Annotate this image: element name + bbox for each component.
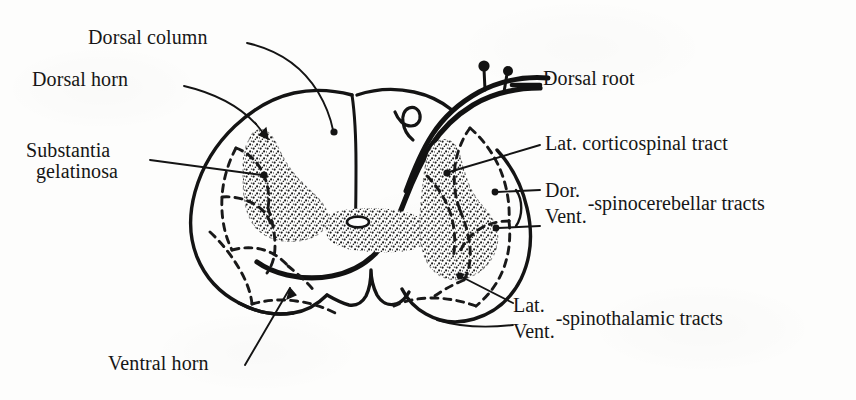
label-ventral-horn: Ventral horn: [108, 352, 209, 374]
label-substantia-gelatinosa: Substantia gelatinosa: [26, 140, 118, 182]
label-lat-corticospinal-tract: Lat. corticospinal tract: [545, 132, 728, 154]
spinocerebellar-abbrev-stack: Dor. Vent.: [545, 178, 587, 229]
central-canal: [347, 217, 369, 228]
spinothalamic-ventral-abbrev: Vent.: [513, 319, 555, 345]
label-spinocerebellar-tracts: Dor. Vent. -spinocerebellar tracts: [545, 178, 765, 229]
spinocerebellar-tract-name: -spinocerebellar tracts: [587, 192, 765, 215]
substantia-line-1: Substantia: [26, 139, 110, 161]
label-spinothalamic-tracts: Lat. Vent. -spinothalamic tracts: [513, 293, 723, 344]
spinocerebellar-ventral-abbrev: Vent.: [545, 204, 587, 230]
substantia-line-2: gelatinosa: [26, 161, 118, 182]
spinothalamic-lateral-abbrev: Lat.: [513, 293, 555, 319]
label-dorsal-column: Dorsal column: [88, 26, 208, 48]
spinothalamic-abbrev-stack: Lat. Vent.: [513, 293, 555, 344]
gray-matter: [230, 120, 520, 290]
label-dorsal-root: Dorsal root: [543, 67, 635, 89]
spinal-cord-figure: Dorsal column Dorsal horn Substantia gel…: [0, 0, 856, 400]
dorsolateral-sulcus-hook: [395, 107, 420, 140]
spinocerebellar-dorsal-abbrev: Dor.: [545, 178, 587, 204]
diagram-ink: [150, 43, 548, 365]
label-dorsal-horn: Dorsal horn: [32, 68, 128, 90]
spinothalamic-tract-name: -spinothalamic tracts: [555, 307, 723, 330]
